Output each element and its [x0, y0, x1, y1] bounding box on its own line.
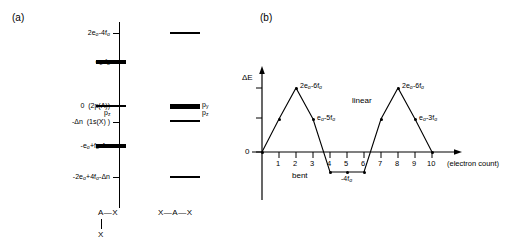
- annotation-esigma-3fsigma: eσ-3fσ: [419, 114, 437, 123]
- x-tick-label: 7: [378, 160, 382, 168]
- panel-b-xlabel: (electron count): [447, 160, 499, 168]
- data-point: [295, 87, 298, 90]
- region-label-bent: bent: [292, 172, 308, 180]
- x-tick-label: 1: [276, 160, 280, 168]
- region-label-linear: linear: [352, 97, 372, 105]
- data-point: [363, 171, 366, 174]
- data-point: [431, 151, 434, 154]
- data-point: [312, 118, 315, 121]
- data-point: [346, 171, 349, 174]
- data-point: [380, 118, 383, 121]
- data-point: [414, 118, 417, 121]
- data-point: [278, 118, 281, 121]
- annotation-minus-4fsigma: -4fσ: [341, 175, 352, 184]
- figure-root: (a) 2eσ-4fσ eσ-fσ 0 (2p(A)) -Δn (1s(X) )…: [0, 0, 508, 252]
- x-tick-label: 2: [293, 160, 297, 168]
- data-point: [397, 87, 400, 90]
- panel-b-y-axis-arrowhead: [259, 66, 265, 74]
- panel-b-x-axis-arrowhead: [454, 149, 462, 155]
- x-tick-label: 5: [344, 160, 348, 168]
- annotation-2esigma-6fsigma-right: 2eσ-6fσ: [402, 82, 424, 91]
- panel-b-plot: [0, 0, 508, 252]
- x-tick-label: 3: [310, 160, 314, 168]
- x-tick-label: 6: [361, 160, 365, 168]
- x-tick-label: 4: [327, 160, 331, 168]
- annotation-2esigma-6fsigma-left: 2eσ-6fσ: [300, 82, 322, 91]
- data-point: [329, 171, 332, 174]
- annotation-esigma-5fsigma: eσ-5fσ: [317, 114, 335, 123]
- x-tick-label: 9: [412, 160, 416, 168]
- data-point: [261, 151, 264, 154]
- x-tick-label: 8: [395, 160, 399, 168]
- x-tick-label: 10: [427, 160, 435, 168]
